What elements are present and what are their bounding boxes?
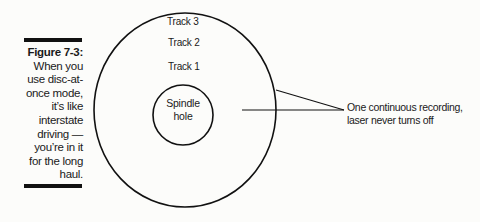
track-2-label: Track 2 <box>168 37 200 48</box>
pointer-line-angled <box>276 90 344 110</box>
spindle-label-line: Spindle <box>153 97 213 110</box>
track-3-label: Track 3 <box>167 16 199 27</box>
recording-annotation: One continuous recording, laser never tu… <box>347 101 463 127</box>
spindle-label-line: hole <box>153 110 213 123</box>
track-1-label: Track 1 <box>168 61 200 72</box>
annotation-line: laser never turns off <box>347 114 463 127</box>
annotation-line: One continuous recording, <box>347 101 463 114</box>
spindle-hole-label: Spindle hole <box>153 97 213 123</box>
